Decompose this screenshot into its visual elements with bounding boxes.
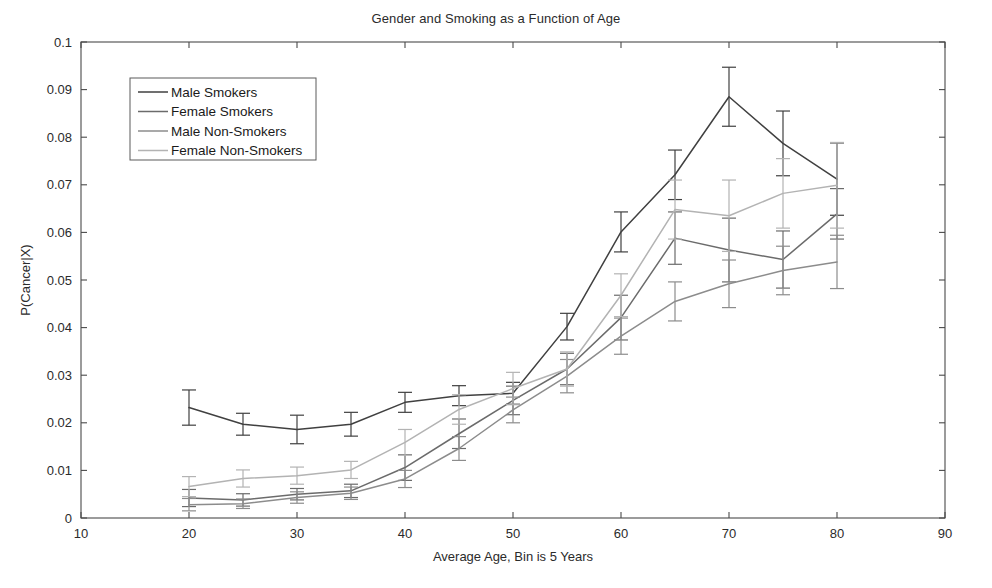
chart-legend: Male SmokersFemale SmokersMale Non-Smoke… <box>130 78 316 160</box>
y-tick-label: 0.09 <box>47 82 72 97</box>
y-axis-tick-labels: 00.010.020.030.040.050.060.070.080.090.1 <box>47 35 72 526</box>
x-tick-label: 50 <box>506 526 520 541</box>
y-tick-label: 0.02 <box>47 415 72 430</box>
y-tick-label: 0 <box>65 511 72 526</box>
x-tick-label: 80 <box>830 526 844 541</box>
y-tick-label: 0.06 <box>47 225 72 240</box>
legend-label-1: Male Smokers <box>171 85 258 100</box>
x-axis-tick-labels: 102030405060708090 <box>74 526 952 541</box>
x-tick-label: 70 <box>722 526 736 541</box>
y-tick-label: 0.1 <box>54 35 72 50</box>
errorbars-series-2 <box>182 189 844 507</box>
y-tick-label: 0.03 <box>47 368 72 383</box>
y-tick-label: 0.08 <box>47 130 72 145</box>
legend-label-2: Female Smokers <box>171 104 273 119</box>
legend-label-4: Female Non-Smokers <box>171 143 303 158</box>
x-tick-label: 40 <box>398 526 412 541</box>
chart-figure: Gender and Smoking as a Function of Age … <box>0 0 992 588</box>
legend-label-3: Male Non-Smokers <box>171 124 287 139</box>
series-4 <box>182 142 844 496</box>
x-tick-label: 20 <box>182 526 196 541</box>
errorbars-series-4 <box>182 142 844 496</box>
y-tick-label: 0.01 <box>47 463 72 478</box>
y-tick-label: 0.04 <box>47 320 72 335</box>
y-axis-label: P(Cancer|X) <box>18 244 33 315</box>
x-tick-label: 90 <box>938 526 952 541</box>
series-2 <box>182 189 844 507</box>
y-tick-label: 0.05 <box>47 273 72 288</box>
x-tick-label: 10 <box>74 526 88 541</box>
x-axis-label: Average Age, Bin is 5 Years <box>433 549 594 564</box>
x-tick-label: 60 <box>614 526 628 541</box>
x-tick-label: 30 <box>290 526 304 541</box>
y-tick-label: 0.07 <box>47 177 72 192</box>
plot-area: 00.010.020.030.040.050.060.070.080.090.1… <box>0 0 992 588</box>
